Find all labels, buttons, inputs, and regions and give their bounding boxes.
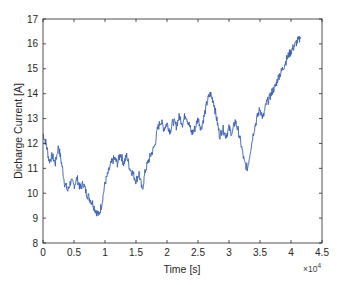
- x-exponent-power: 4: [317, 262, 321, 269]
- x-tick-label: 2.5: [191, 247, 205, 258]
- y-tick-label: 17: [27, 14, 39, 25]
- x-tick-label: 4.5: [315, 247, 329, 258]
- y-tick-label: 13: [27, 113, 39, 124]
- figure-background: [0, 0, 345, 285]
- x-tick-label: 4: [288, 247, 294, 258]
- y-tick-label: 12: [27, 138, 39, 149]
- x-tick-label: 1: [102, 247, 108, 258]
- x-tick-label: 0: [40, 247, 46, 258]
- y-tick-label: 10: [27, 188, 39, 199]
- y-tick-label: 15: [27, 63, 39, 74]
- y-tick-label: 8: [32, 238, 38, 249]
- line-chart: 00.511.522.533.544.5 891011121314151617 …: [0, 0, 345, 285]
- x-tick-label: 2: [164, 247, 170, 258]
- y-tick-label: 14: [27, 88, 39, 99]
- y-tick-label: 9: [32, 213, 38, 224]
- x-exponent-base: ×10: [303, 264, 318, 274]
- x-axis-label: Time [s]: [164, 263, 201, 275]
- x-tick-label: 3: [226, 247, 232, 258]
- x-tick-label: 0.5: [67, 247, 81, 258]
- x-tick-label: 3.5: [253, 247, 267, 258]
- y-axis-label: Dicharge Current [A]: [12, 83, 24, 179]
- y-tick-label: 11: [28, 163, 39, 174]
- x-tick-label: 1.5: [129, 247, 143, 258]
- y-tick-label: 16: [27, 38, 39, 49]
